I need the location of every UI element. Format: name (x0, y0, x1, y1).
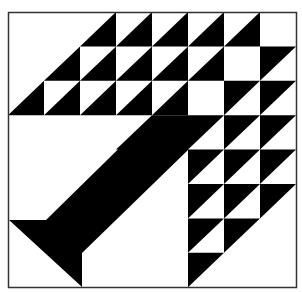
triangle-cell (44, 81, 80, 115)
triangle-cell (188, 184, 224, 218)
triangle-cell (188, 150, 224, 184)
triangle-cell (116, 12, 152, 46)
triangle-cell (224, 218, 260, 252)
triangle-cell (116, 81, 152, 115)
triangle-cell (224, 81, 260, 115)
triangle-cell (44, 46, 80, 80)
triangle-cell (188, 115, 224, 149)
triangle-cell (8, 81, 44, 115)
triangle-cell (152, 81, 188, 115)
triangle-cell (260, 81, 296, 115)
triangle-cell (260, 184, 296, 218)
diagonal-band (9, 116, 188, 287)
triangle-cell (80, 81, 116, 115)
triangle-cell (116, 46, 152, 80)
triangle-cell (224, 184, 260, 218)
triangle-cell (188, 253, 224, 287)
triangle-cell (224, 150, 260, 184)
triangle-cell (260, 115, 296, 149)
triangle-cell (224, 115, 260, 149)
triangle-cell (188, 12, 224, 46)
triangle-cell (80, 12, 116, 46)
quilt-block (0, 0, 302, 292)
triangle-cell (224, 12, 260, 46)
triangle-cell (152, 46, 188, 80)
triangle-cell (80, 46, 116, 80)
triangle-cell (188, 218, 224, 252)
triangle-cell (152, 12, 188, 46)
triangle-cell (188, 46, 224, 80)
triangle-cell (260, 46, 296, 80)
triangle-cell (260, 150, 296, 184)
